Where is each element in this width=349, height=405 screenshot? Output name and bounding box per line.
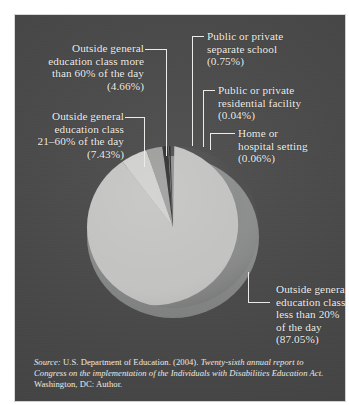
leader-line-separate-school-v xyxy=(192,36,193,146)
leader-line-separate-school-h xyxy=(192,36,204,37)
leader-line-21-60-v xyxy=(144,117,145,167)
label-residential-value: (0.04%) xyxy=(218,109,343,122)
label-less-than-20-line2: education class xyxy=(276,296,346,309)
pie-shading xyxy=(87,146,259,308)
leader-line-21-60-h xyxy=(125,117,145,118)
source-citation: Source: U.S. Department of Education. (2… xyxy=(34,357,334,390)
label-less-than-20-line1: Outside general xyxy=(276,283,346,296)
label-more-than-60-line2: education class more xyxy=(48,55,144,68)
leader-line-residential-v xyxy=(203,90,204,147)
leader-line-home-hospital-v xyxy=(210,133,211,150)
label-separate-school-line2: separate school xyxy=(207,43,327,56)
label-residential-facility: Public or private residential facility (… xyxy=(218,84,343,122)
leader-line-home-hospital-h xyxy=(210,133,235,134)
label-more-than-60-value: (4.66%) xyxy=(48,80,144,93)
label-residential-line1: Public or private xyxy=(218,84,343,97)
label-21-60: Outside general education class 21–60% o… xyxy=(32,110,124,160)
label-separate-school-value: (0.75%) xyxy=(207,55,327,68)
pie-chart xyxy=(87,142,285,338)
label-more-than-60: Outside general education class more tha… xyxy=(48,42,144,92)
label-separate-school: Public or private separate school (0.75%… xyxy=(207,30,327,68)
label-21-60-line1: Outside general xyxy=(32,110,124,123)
leader-line-less-than-20-v xyxy=(248,272,249,302)
leader-line-more-than-60-v xyxy=(166,49,167,156)
label-home-hospital-value: (0.06%) xyxy=(238,152,346,165)
source-publisher: U.S. Department of Education. (2004). xyxy=(61,357,201,367)
label-less-than-20-line4: of the day xyxy=(276,321,346,334)
leader-line-residential-h xyxy=(203,90,215,91)
label-residential-line2: residential facility xyxy=(218,97,343,110)
leader-line-less-than-20-h xyxy=(248,302,270,303)
label-21-60-line2: education class xyxy=(32,123,124,136)
source-place: Washington, DC: Author. xyxy=(34,379,122,389)
label-home-hospital: Home or hospital setting (0.06%) xyxy=(238,127,346,165)
label-21-60-line3: 21–60% of the day xyxy=(32,135,124,148)
label-less-than-20: Outside general education class less tha… xyxy=(276,283,346,346)
chart-panel: Outside general education class more tha… xyxy=(14,14,346,402)
label-less-than-20-value: (87.05%) xyxy=(276,333,346,346)
figure-root: Outside general education class more tha… xyxy=(0,0,349,405)
label-more-than-60-line3: than 60% of the day xyxy=(48,67,144,80)
label-less-than-20-line3: less than 20% xyxy=(276,308,346,321)
label-more-than-60-line1: Outside general xyxy=(48,42,144,55)
pie-slices xyxy=(87,146,259,308)
source-prefix: Source: xyxy=(34,357,61,367)
label-separate-school-line1: Public or private xyxy=(207,30,327,43)
label-home-hospital-line1: Home or xyxy=(238,127,346,140)
pie-face xyxy=(87,146,259,308)
label-21-60-value: (7.43%) xyxy=(32,148,124,161)
leader-line-more-than-60-h xyxy=(145,49,167,50)
label-home-hospital-line2: hospital setting xyxy=(238,140,346,153)
